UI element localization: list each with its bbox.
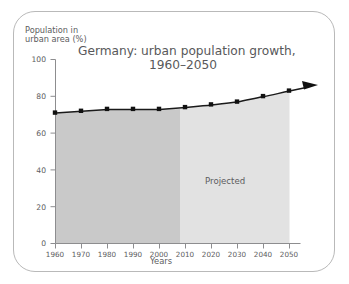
historical-area-fill (56, 109, 181, 243)
chart-title: Germany: urban population growth,1960–20… (78, 45, 288, 72)
y-tick-label: 0 (26, 239, 46, 248)
projected-area-fill (180, 91, 290, 243)
y-axis-ticks (51, 60, 56, 244)
chart-title-line1: Germany: urban population growth, (78, 44, 296, 58)
x-tick-label: 1980 (94, 250, 120, 259)
x-axis-ticks (56, 244, 290, 249)
y-tick-label: 40 (26, 166, 46, 175)
y-tick-label: 60 (26, 129, 46, 138)
x-tick-label: 2050 (276, 250, 302, 259)
x-tick-label: 2010 (172, 250, 198, 259)
x-tick-label: 1990 (120, 250, 146, 259)
arrowhead-icon (302, 81, 318, 90)
x-tick-label: 2040 (250, 250, 276, 259)
x-tick-label: 2020 (198, 250, 224, 259)
y-tick-label: 20 (26, 203, 46, 212)
y-axis-title: Population inurban area (%) (25, 26, 87, 44)
y-tick-label: 100 (26, 55, 46, 64)
x-tick-label: 2030 (224, 250, 250, 259)
x-tick-label: 2000 (146, 250, 172, 259)
projected-annotation: Projected (205, 177, 245, 187)
x-tick-label: 1960 (42, 250, 68, 259)
y-tick-label: 80 (26, 92, 46, 101)
x-tick-label: 1970 (68, 250, 94, 259)
chart-title-line2: 1960–2050 (78, 59, 288, 73)
y-axis-title-line2: urban area (%) (25, 34, 87, 44)
